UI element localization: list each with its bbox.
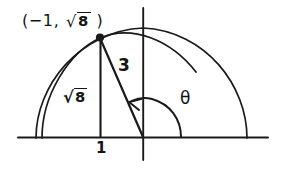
hypotenuse-segment bbox=[100, 38, 143, 137]
angle-theta-label: θ bbox=[180, 90, 190, 107]
outer-semicircle-arc bbox=[36, 28, 247, 138]
coordinate-comma: , bbox=[54, 11, 60, 30]
opposite-radical: √8 bbox=[62, 88, 87, 105]
coordinate-open-paren: ( bbox=[22, 11, 29, 30]
coordinate-x-value: −1 bbox=[29, 11, 54, 30]
coordinate-y-radical: √8 bbox=[65, 12, 91, 29]
coordinate-radical-sign: √ bbox=[66, 14, 77, 30]
plotted-point-dot bbox=[96, 33, 104, 41]
coordinate-close-paren: ) bbox=[97, 11, 104, 30]
point-coordinate-label: (−1, √8 ) bbox=[22, 12, 103, 29]
trigonometry-diagram: (−1, √8 ) 3 √8 1 θ bbox=[0, 0, 284, 174]
adjacent-length-label: 1 bbox=[96, 141, 106, 156]
coordinate-radicand: 8 bbox=[77, 12, 91, 29]
opposite-length-label: √8 bbox=[62, 88, 87, 105]
opposite-radicand: 8 bbox=[74, 88, 87, 105]
hypotenuse-length-label: 3 bbox=[118, 57, 130, 74]
opposite-radical-sign: √ bbox=[63, 90, 74, 106]
inner-semicircle-arc bbox=[42, 33, 196, 138]
